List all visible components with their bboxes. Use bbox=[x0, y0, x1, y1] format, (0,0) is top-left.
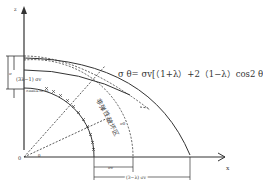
origin-label: 0 bbox=[18, 155, 21, 161]
z-axis-label: z bbox=[14, 6, 17, 12]
left-small-label: σ bbox=[9, 71, 12, 76]
radial-line-3 bbox=[140, 107, 148, 108]
sigma-theta-label: σθ bbox=[120, 121, 126, 126]
radial-line-2 bbox=[24, 117, 110, 157]
x-axis-label: x bbox=[226, 164, 230, 171]
z-axis-arrow-icon bbox=[21, 6, 27, 14]
left-dimension-label: (3λ−1) σv bbox=[16, 76, 42, 82]
dashed-stress-curve bbox=[24, 56, 150, 110]
plastic-zone-boundary bbox=[24, 60, 133, 157]
bottom-dim-2-label: (3−λ) σv bbox=[126, 175, 146, 180]
region-label: 非弹性破坏区 bbox=[94, 97, 122, 138]
bottom-dim-1-label: σv bbox=[108, 165, 114, 170]
inner-arc-label: σmax=3λ σv bbox=[26, 89, 49, 93]
opening-boundary bbox=[24, 88, 94, 157]
hatch-marks bbox=[45, 87, 95, 151]
formula: σ θ= σv[（1+λ）+2（1−λ）cos2 θ] bbox=[118, 69, 263, 79]
stress-diagram: z x 0 σ θ= σv[（1+λ）+2（1−λ）cos2 θ] (3λ−1)… bbox=[0, 0, 263, 183]
